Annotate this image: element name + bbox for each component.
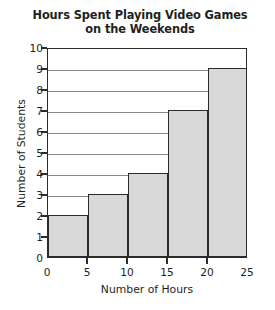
x-axis-tick <box>166 258 168 264</box>
chart-title-line-2: on the Weekends <box>22 23 258 37</box>
y-axis-tick-label: 10 <box>3 43 43 54</box>
x-axis-tick-label: 20 <box>192 267 222 278</box>
y-axis-tick-label: 5 <box>3 148 43 159</box>
y-axis-tick-label: 2 <box>3 211 43 222</box>
plot-area <box>47 48 247 258</box>
bar <box>168 110 208 257</box>
bar <box>88 194 128 257</box>
y-axis-tick-label: 9 <box>3 64 43 75</box>
bar <box>208 68 247 257</box>
y-axis-tick-label: 7 <box>3 106 43 117</box>
x-axis-tick <box>126 258 128 264</box>
x-axis-tick <box>86 258 88 264</box>
x-axis-tick-label: 10 <box>112 267 142 278</box>
histogram-figure: Hours Spent Playing Video Games on the W… <box>0 0 275 310</box>
y-axis-tick-label: 0 <box>3 253 43 264</box>
y-axis-tick-label: 3 <box>3 190 43 201</box>
bar <box>128 173 168 257</box>
x-axis-tick-label: 0 <box>32 267 62 278</box>
y-axis-tick-label: 6 <box>3 127 43 138</box>
x-axis-title: Number of Hours <box>47 284 247 295</box>
y-axis-tick-label: 1 <box>3 232 43 243</box>
y-axis-tick-label: 8 <box>3 85 43 96</box>
x-axis-tick-label: 5 <box>72 267 102 278</box>
x-axis-tick-label: 25 <box>232 267 262 278</box>
x-axis-tick-label: 15 <box>152 267 182 278</box>
x-axis-tick <box>206 258 208 264</box>
y-axis-tick-label: 4 <box>3 169 43 180</box>
chart-title: Hours Spent Playing Video Games on the W… <box>22 9 258 36</box>
bar <box>48 215 88 257</box>
chart-title-line-1: Hours Spent Playing Video Games <box>32 8 247 22</box>
